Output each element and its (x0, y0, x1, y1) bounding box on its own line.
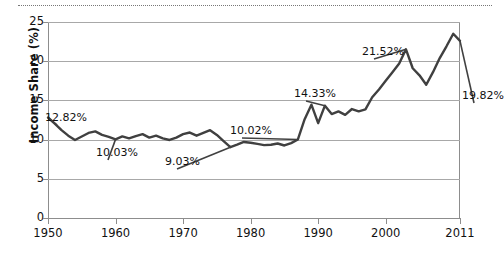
gridline-0 (48, 218, 460, 219)
y-tick-label-0: 0 (2, 210, 44, 224)
leader-line-1002 (242, 138, 298, 139)
x-tick-mark-1990 (318, 218, 319, 224)
x-tick-mark-2000 (386, 218, 387, 224)
x-tick-label-1990: 1990 (288, 226, 348, 240)
x-tick-mark-2011 (460, 218, 461, 224)
annotation-1003: 10.03% (96, 146, 138, 159)
x-tick-label-1970: 1970 (153, 226, 213, 240)
x-tick-label-2000: 2000 (356, 226, 416, 240)
x-tick-label-1950: 1950 (18, 226, 78, 240)
y-tick-label-15: 15 (2, 92, 44, 106)
x-tick-mark-1980 (251, 218, 252, 224)
y-tick-label-20: 20 (2, 53, 44, 67)
x-tick-label-2011: 2011 (430, 226, 490, 240)
x-tick-label-1960: 1960 (86, 226, 146, 240)
annotation-1982: 19.82% (462, 89, 504, 102)
y-axis-tick-labels: 0510152025 (0, 22, 44, 218)
annotation-903: 9.03% (165, 155, 200, 168)
annotation-1282: 12.82% (45, 111, 87, 124)
x-tick-mark-1960 (116, 218, 117, 224)
annotation-1002: 10.02% (230, 124, 272, 137)
annotation-1433: 14.33% (294, 87, 336, 100)
leader-line-1433 (306, 101, 325, 106)
annotation-2152: 21.52% (362, 45, 404, 58)
chart-figure: Income Share (%) 0510152025 195019601970… (0, 0, 504, 257)
top-dotted-rule (18, 5, 492, 6)
x-tick-mark-1970 (183, 218, 184, 224)
x-tick-label-1980: 1980 (221, 226, 281, 240)
y-tick-label-5: 5 (2, 171, 44, 185)
x-tick-mark-1950 (48, 218, 49, 224)
y-tick-label-10: 10 (2, 132, 44, 146)
y-tick-label-25: 25 (2, 14, 44, 28)
